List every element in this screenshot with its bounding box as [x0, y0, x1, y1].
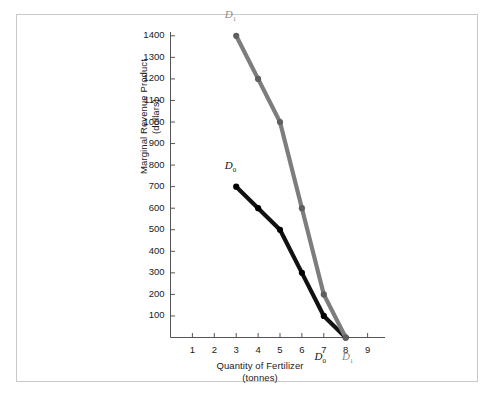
x-axis-tick-label: 2 — [206, 344, 222, 355]
data-point-marker — [343, 334, 349, 340]
data-point-marker — [255, 76, 261, 82]
y-axis-tick-label: 700 — [131, 180, 165, 191]
data-point-marker — [321, 291, 327, 297]
y-axis-tick-label: 100 — [131, 309, 165, 320]
y-axis-tick-label: 1100 — [131, 94, 165, 105]
y-axis-tick-label: 400 — [131, 245, 165, 256]
y-axis-tick-label: 300 — [131, 266, 165, 277]
d1-bottom-label: D1 — [342, 350, 353, 365]
x-axis-tick-label: 1 — [184, 344, 200, 355]
y-axis-tick-label: 1300 — [131, 51, 165, 62]
y-axis-tick-label: 200 — [131, 288, 165, 299]
y-axis-tick-label: 1200 — [131, 72, 165, 83]
y-axis-tick-label: 1000 — [131, 116, 165, 127]
y-axis-tick-label: 900 — [131, 137, 165, 148]
y-axis-tick-label: 500 — [131, 223, 165, 234]
data-series-layer — [233, 33, 349, 341]
y-axis-tick-label: 1400 — [131, 29, 165, 40]
data-point-marker — [321, 313, 327, 319]
x-axis-tick-label: 3 — [228, 344, 244, 355]
x-axis-tick-label: 5 — [272, 344, 288, 355]
y-axis-ticks — [171, 36, 176, 316]
d1-top-label: D1 — [225, 8, 236, 23]
series-line-D0 — [236, 187, 346, 338]
d0-top-label: D0 — [225, 159, 236, 174]
x-axis-tick-label: 9 — [360, 344, 376, 355]
x-axis-tick-label: 4 — [250, 344, 266, 355]
data-point-marker — [299, 205, 305, 211]
d0-bottom-label: D0 — [315, 350, 326, 365]
data-point-marker — [255, 205, 261, 211]
data-point-marker — [233, 184, 239, 190]
data-point-marker — [233, 33, 239, 39]
series-line-D1 — [236, 36, 346, 338]
data-point-marker — [277, 119, 283, 125]
y-axis-tick-label: 600 — [131, 202, 165, 213]
data-point-marker — [299, 270, 305, 276]
y-axis-tick-label: 800 — [131, 159, 165, 170]
chart-plot-area — [0, 0, 496, 403]
data-point-marker — [277, 227, 283, 233]
x-axis-tick-label: 6 — [294, 344, 310, 355]
